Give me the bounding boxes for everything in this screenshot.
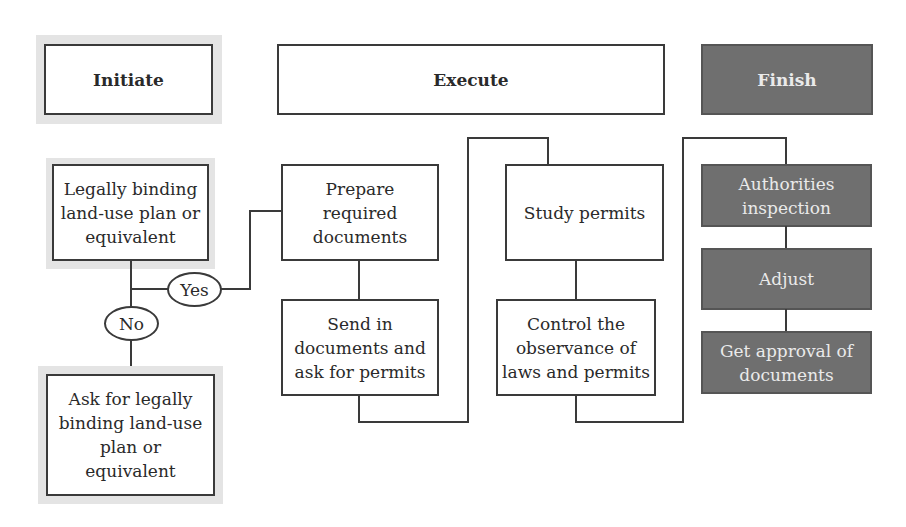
study-box: Study permits (505, 164, 664, 261)
connector (249, 210, 282, 212)
connector (547, 137, 549, 165)
no-decision-oval: No (104, 306, 159, 341)
connector (358, 421, 469, 423)
connector (358, 260, 360, 300)
adjust-text: Adjust (759, 267, 814, 291)
connector (249, 210, 251, 290)
yes-decision-oval: Yes (167, 272, 222, 307)
approval-box: Get approval of documents (701, 331, 872, 394)
ask-box: Ask for legally binding land-use plan or… (46, 374, 215, 496)
send-box: Send in documents and ask for permits (281, 299, 439, 396)
initiate-label: Initiate (93, 68, 164, 92)
send-text: Send in documents and ask for permits (294, 312, 426, 384)
connector (575, 395, 577, 423)
connector (575, 421, 684, 423)
connector (785, 226, 787, 249)
prepare-box: Prepare required documents (281, 164, 439, 261)
connector (467, 137, 469, 423)
condition-box: Legally binding land-use plan or equival… (52, 164, 209, 261)
connector (785, 137, 787, 165)
control-text: Control the observance of laws and permi… (502, 312, 650, 384)
control-box: Control the observance of laws and permi… (496, 299, 656, 396)
inspection-box: Authorities inspection (701, 164, 872, 227)
finish-label: Finish (757, 68, 816, 92)
execute-label: Execute (433, 68, 508, 92)
no-label: No (119, 314, 144, 334)
connector (785, 309, 787, 332)
inspection-text: Authorities inspection (739, 172, 835, 220)
connector (467, 137, 549, 139)
connector (575, 260, 577, 300)
yes-label: Yes (180, 280, 209, 300)
initiate-phase-header: Initiate (44, 44, 213, 115)
ask-text: Ask for legally binding land-use plan or… (59, 387, 203, 483)
connector (358, 395, 360, 423)
execute-phase-header: Execute (277, 44, 665, 115)
connector (682, 137, 787, 139)
finish-phase-header: Finish (701, 44, 873, 115)
connector (682, 137, 684, 423)
connector (220, 288, 250, 290)
adjust-box: Adjust (701, 248, 872, 310)
prepare-text: Prepare required documents (313, 177, 407, 249)
condition-text: Legally binding land-use plan or equival… (61, 177, 200, 249)
approval-text: Get approval of documents (720, 339, 853, 387)
study-text: Study permits (524, 201, 646, 225)
connector (130, 288, 168, 290)
